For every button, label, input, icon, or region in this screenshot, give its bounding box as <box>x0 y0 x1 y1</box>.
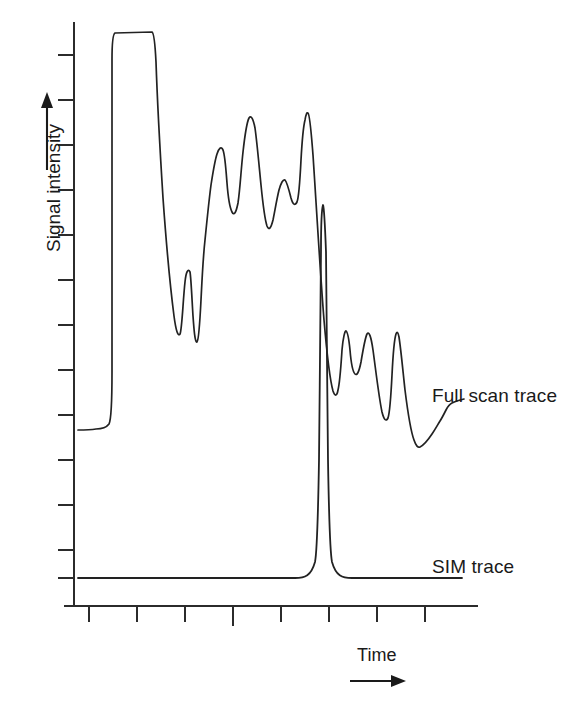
x-axis-direction-arrow <box>350 675 406 687</box>
x-axis-ticks <box>89 606 425 626</box>
y-axis-label: Signal intensity <box>43 124 64 252</box>
y-axis-label-wrap: Signal intensity <box>43 88 69 288</box>
full-scan-trace-line <box>78 32 464 447</box>
full-scan-trace-label: Full scan trace <box>432 386 557 406</box>
chromatogram-figure: Signal intensity Full scan trace SIM tra… <box>0 0 586 714</box>
sim-trace-label: SIM trace <box>432 557 514 577</box>
x-axis-label: Time <box>357 646 397 665</box>
chart-canvas <box>0 0 586 714</box>
